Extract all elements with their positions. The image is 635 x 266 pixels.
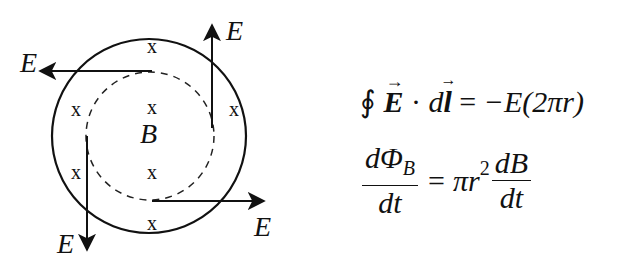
flux-derivative-fraction: dΦB dt [362,142,418,219]
x-mark: x [71,161,81,183]
e-vector: E→ [384,85,404,118]
equation-line-integral: ∮ E→ · dl→ = −E(2πr) [360,84,584,119]
b-derivative-fraction: dB dt [492,147,531,214]
equation-flux-rate: dΦB dt = πr2 dB dt [360,142,533,219]
exponent: 2 [480,157,490,180]
dot-operator: · [411,85,421,118]
rhs-expression: −E(2πr) [484,85,584,118]
equals-sign: = [428,164,445,198]
b-field-label: B [140,118,157,149]
x-mark: x [229,98,239,120]
x-mark: x [147,96,157,118]
x-mark: x [147,161,157,183]
e-label-down: E [56,228,74,259]
d-symbol: d [429,85,444,118]
x-mark: x [71,98,81,120]
e-label-left: E [19,47,37,78]
e-label-right: E [253,211,271,242]
e-label-up: E [225,15,243,46]
contour-integral-symbol: ∮ [360,85,376,118]
equals-sign: = [459,85,476,118]
l-vector: l→ [444,85,452,118]
induced-electric-field-diagram: E E E E B x x x x x x x [0,0,320,266]
x-mark: x [147,35,157,57]
coefficient: πr [453,164,480,198]
x-mark: x [147,212,157,234]
